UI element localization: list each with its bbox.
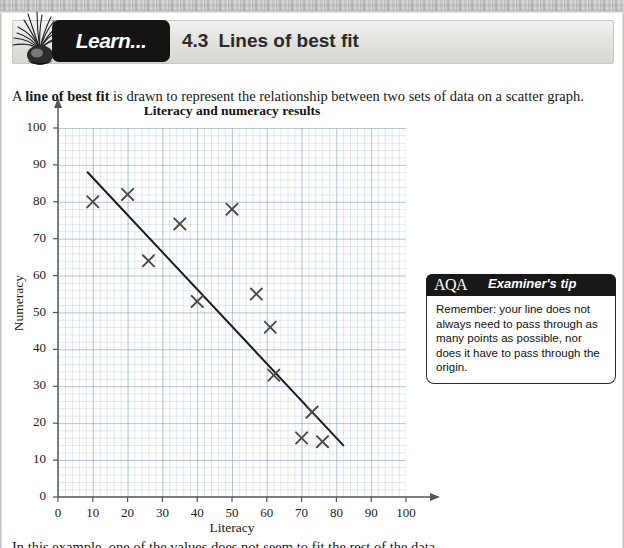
x-tick-label: 90 [354,505,388,521]
examiner-tip-header: AQA Examiner's tip [426,274,616,296]
data-point-marker [143,255,154,266]
examiner-tip-title: Examiner's tip [488,276,576,291]
x-tick-label: 50 [215,505,249,521]
x-tick-label: 0 [41,505,75,521]
bottom-note: In this example, one of the values does … [12,538,612,548]
x-tick-label: 20 [111,505,145,521]
aqa-logo: AQA [434,276,467,294]
examiner-tip-body: Remember: your line does not always need… [426,296,616,384]
data-point-marker [192,296,203,307]
chart-data-points [87,189,328,447]
section-header-title: 4.3Lines of best fit [182,20,359,62]
examiner-tip-box: AQA Examiner's tip Remember: your line d… [426,274,616,384]
y-tick-label: 30 [12,377,46,393]
learn-tab-badge: Learn... [52,20,170,62]
learn-tab-label: Learn... [52,20,170,62]
x-tick-label: 100 [389,505,423,521]
y-tick-label: 20 [12,414,46,430]
x-tick-label: 10 [76,505,110,521]
chart-axes [54,98,440,501]
y-tick-label: 70 [12,230,46,246]
y-tick-label: 10 [12,451,46,467]
y-tick-label: 0 [12,488,46,504]
scatter-chart-figure: Literacy and numeracy results 0102030405… [0,100,460,540]
y-axis-title: Numeracy [11,248,27,358]
data-point-marker [296,432,307,443]
data-point-marker [306,407,317,418]
data-point-marker [317,436,328,447]
x-tick-label: 70 [285,505,319,521]
x-axis-title: Literacy [58,520,406,536]
y-tick-label: 90 [12,156,46,172]
page-top-texture-edge [0,11,624,13]
x-tick-label: 80 [319,505,353,521]
data-point-marker [226,204,237,215]
data-point-marker [251,288,262,299]
x-tick-label: 30 [145,505,179,521]
page-top-texture [0,0,624,11]
line-of-best-fit [88,172,344,445]
section-number: 4.3 [182,30,208,51]
y-tick-label: 100 [12,119,46,135]
data-point-marker [87,196,98,207]
section-title: Lines of best fit [218,30,358,51]
chart-tick-marks [53,128,406,502]
y-tick-label: 80 [12,193,46,209]
data-point-marker [174,218,185,229]
chart-vector-layer [0,100,460,540]
data-point-marker [122,189,133,200]
x-tick-label: 60 [250,505,284,521]
data-point-marker [265,322,276,333]
x-tick-label: 40 [180,505,214,521]
